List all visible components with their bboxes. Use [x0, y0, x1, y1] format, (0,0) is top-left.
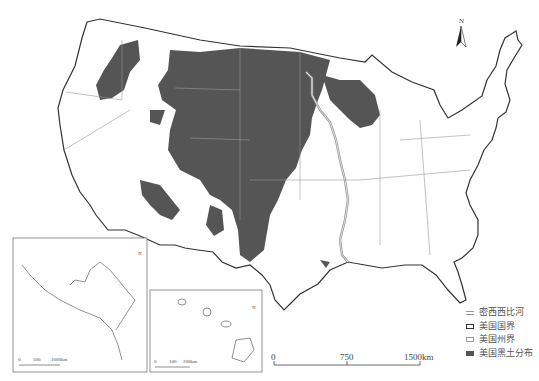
svg-text:0: 0 [271, 352, 276, 362]
svg-text:750: 750 [340, 352, 354, 362]
main-scale-bar: 0 750 1500km [271, 352, 434, 365]
svg-text:N: N [459, 17, 464, 25]
north-arrow: N [456, 17, 466, 47]
legend-item-national-border: 美国国界 [466, 320, 533, 334]
legend-item-black-soil: 美国黑土分布 [466, 347, 533, 361]
map-canvas: N 0 750 1500km N 0 500 1000km N 0 100 20… [0, 0, 539, 381]
svg-text:500: 500 [33, 357, 41, 362]
svg-text:100: 100 [169, 359, 177, 364]
map-legend: 密西西比河 美国国界 美国州界 美国黑土分布 [466, 306, 533, 360]
legend-item-river: 密西西比河 [466, 306, 533, 320]
hawaii-inset: N 0 100 200km [150, 290, 262, 372]
legend-item-state-border: 美国州界 [466, 333, 533, 347]
svg-text:200km: 200km [183, 359, 197, 364]
svg-text:N: N [252, 305, 256, 310]
alaska-inset: N 0 500 1000km [13, 238, 147, 372]
svg-text:1000km: 1000km [51, 357, 68, 362]
svg-text:1500km: 1500km [404, 352, 434, 362]
svg-text:N: N [138, 251, 142, 256]
